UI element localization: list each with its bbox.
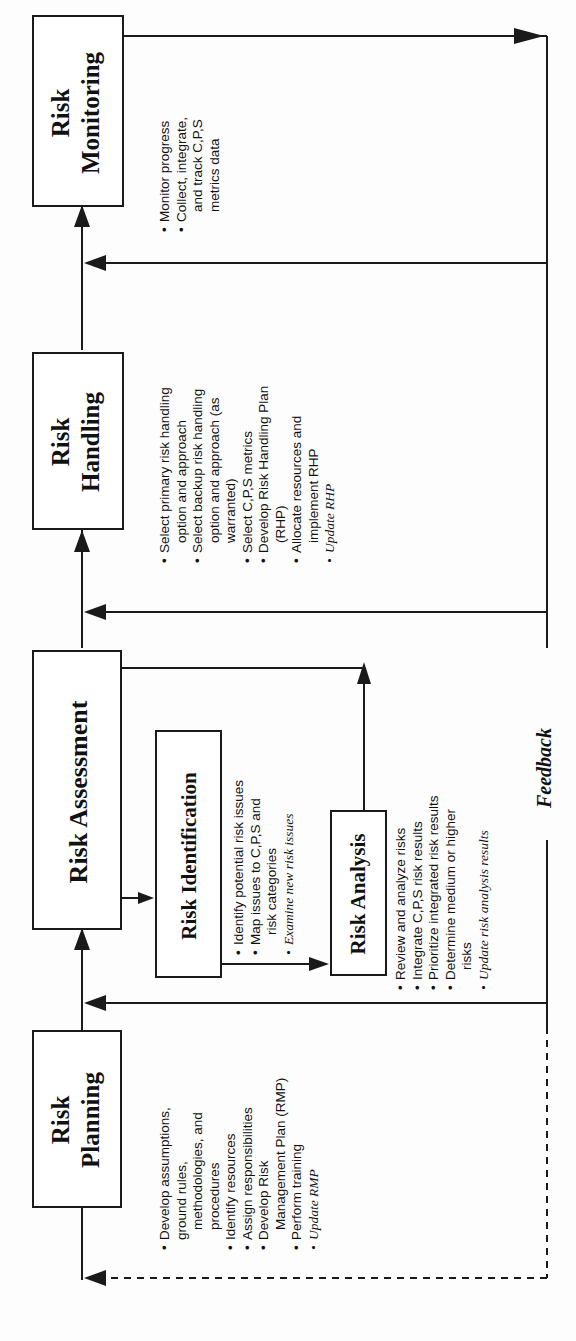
stage-title-line1: Risk bbox=[46, 33, 76, 193]
bullet: Examine new risk issues bbox=[281, 715, 298, 955]
stage-title-line1: Risk bbox=[46, 370, 76, 514]
bullet: Monitor progress bbox=[157, 52, 174, 232]
substage-box-risk-analysis: Risk Analysis bbox=[330, 810, 387, 976]
bullet: Develop Risk bbox=[256, 1010, 273, 1250]
bullet-cont: methodologies, and bbox=[190, 1010, 207, 1250]
identification-bullets: Identify potential risk issues Map issue… bbox=[231, 715, 297, 955]
stage-title-line1: Risk bbox=[46, 1048, 76, 1192]
monitoring-bullets: Monitor progress Collect, integrate, and… bbox=[157, 52, 223, 232]
bullet: Collect, integrate, bbox=[174, 52, 191, 232]
bullet: Update RMP bbox=[306, 1010, 323, 1250]
feedback-label: Feedback bbox=[533, 728, 556, 808]
bullet: Map issues to C,P,S and bbox=[248, 715, 265, 955]
bullet: Develop Risk Handling Plan bbox=[256, 283, 273, 563]
bullet-cont: warranted) bbox=[223, 283, 240, 563]
handling-bullets: Select primary risk handling option and … bbox=[157, 283, 339, 563]
bullet-cont: (RHP) bbox=[273, 283, 290, 563]
bullet: Update risk analysis results bbox=[476, 690, 493, 990]
bullet: Assign responsibilities bbox=[240, 1010, 257, 1250]
stage-box-risk-monitoring: Risk Monitoring bbox=[32, 15, 124, 207]
bullet-cont: Management Plan (RMP) bbox=[273, 1010, 290, 1250]
stage-title-line2: Monitoring bbox=[76, 33, 106, 193]
substage-title: Risk Analysis bbox=[346, 824, 370, 964]
bullet: Allocate resources and bbox=[289, 283, 306, 563]
substage-title: Risk Identification bbox=[177, 746, 201, 966]
bullet: Integrate C,P,S risk results bbox=[410, 690, 427, 990]
bullet: Review and analyze risks bbox=[393, 690, 410, 990]
stage-box-risk-planning: Risk Planning bbox=[32, 1030, 122, 1208]
bullet-cont: implement RHP bbox=[306, 283, 323, 563]
stage-title-line2: Planning bbox=[76, 1048, 106, 1192]
bullet: Determine medium or higher bbox=[443, 690, 460, 990]
bullet-cont: ground rules, bbox=[174, 1010, 191, 1250]
bullet: Select primary risk handling bbox=[157, 283, 174, 563]
bullet: Identify potential risk issues bbox=[231, 715, 248, 955]
stage-box-risk-assessment: Risk Assessment bbox=[32, 650, 122, 930]
substage-box-risk-identification: Risk Identification bbox=[155, 730, 222, 978]
bullet: Update RHP bbox=[322, 283, 339, 563]
stage-box-risk-handling: Risk Handling bbox=[32, 352, 124, 530]
bullet: Identify resources bbox=[223, 1010, 240, 1250]
bullet-cont: risk categories bbox=[264, 715, 281, 955]
bullet-cont: procedures bbox=[207, 1010, 224, 1250]
bullet-cont: metrics data bbox=[207, 52, 224, 232]
bullet: Develop assumptions, bbox=[157, 1010, 174, 1250]
bullet-cont: option and approach bbox=[174, 283, 191, 563]
bullet: Perform training bbox=[289, 1010, 306, 1250]
bullet: Select backup risk handling bbox=[190, 283, 207, 563]
stage-title: Risk Assessment bbox=[64, 667, 94, 917]
analysis-bullets: Review and analyze risks Integrate C,P,S… bbox=[393, 690, 492, 990]
bullet: Prioritize integrated risk results bbox=[426, 690, 443, 990]
bullet-cont: risks bbox=[459, 690, 476, 990]
stage-title-line2: Handling bbox=[76, 370, 106, 514]
planning-bullets: Develop assumptions, ground rules, metho… bbox=[157, 1010, 322, 1250]
bullet-cont: and track C,P,S bbox=[190, 52, 207, 232]
bullet-cont: option and approach (as bbox=[207, 283, 224, 563]
bullet: Select C,P,S metrics bbox=[240, 283, 257, 563]
risk-management-diagram: Risk Planning Develop assumptions, groun… bbox=[0, 0, 576, 1341]
